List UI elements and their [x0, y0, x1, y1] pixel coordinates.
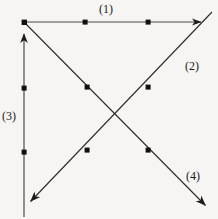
ray-2-line	[31, 12, 213, 202]
ray-4-marker-2	[146, 148, 151, 153]
ray-1-label: (1)	[99, 3, 113, 15]
ray-4-marker-1	[85, 85, 90, 90]
ray-1-marker-2	[146, 20, 151, 25]
ray-2-label: (2)	[185, 60, 199, 72]
ray-3-label: (3)	[2, 110, 16, 122]
figure-canvas: (1) (2) (3) (4)	[0, 0, 218, 219]
ray-4-diagonal-down-right	[24, 22, 206, 206]
ray-1-origin-marker	[22, 20, 27, 25]
ray-3-marker-2	[22, 150, 27, 155]
ray-2-marker-1	[85, 148, 90, 153]
ray-1-horizontal	[22, 20, 201, 25]
ray-3-marker-1	[22, 86, 27, 91]
ray-4-label: (4)	[186, 170, 200, 182]
ray-2-diagonal-up-right	[31, 12, 213, 202]
vector-diagram	[0, 0, 218, 219]
ray-2-marker-2	[146, 85, 151, 90]
ray-3-vertical	[22, 34, 27, 217]
ray-4-line	[24, 22, 206, 206]
ray-1-marker-1	[83, 20, 88, 25]
